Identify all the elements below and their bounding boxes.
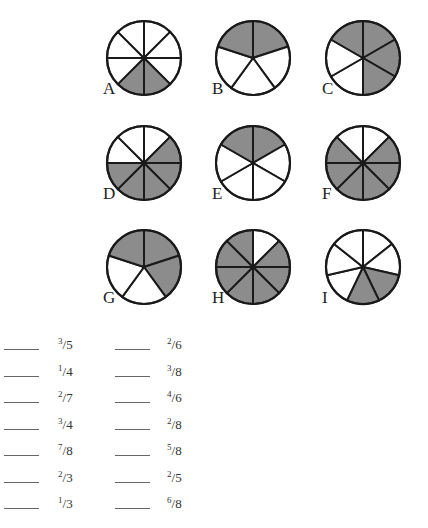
pie-label-e: E <box>212 185 222 202</box>
pie-label-a: A <box>103 80 115 97</box>
answer-blank[interactable] <box>4 455 39 456</box>
fraction-label: 5/8 <box>167 442 182 459</box>
pie-b <box>216 21 290 95</box>
fraction-label: 1/3 <box>58 495 73 512</box>
answer-blank[interactable] <box>4 508 39 509</box>
fraction-label: 2/8 <box>167 416 182 433</box>
answer-blank[interactable] <box>115 429 150 430</box>
pie-label-c: C <box>322 80 333 97</box>
fraction-label: 2/3 <box>58 469 73 486</box>
pie-i <box>326 230 400 304</box>
pie-c <box>326 21 400 95</box>
fraction-denominator: 3 <box>66 470 73 485</box>
fraction-label: 2/7 <box>58 389 73 406</box>
fraction-denominator: 4 <box>66 364 73 379</box>
answer-blank[interactable] <box>115 455 150 456</box>
fraction-label: 3/4 <box>58 416 73 433</box>
fraction-denominator: 6 <box>175 390 182 405</box>
pie-label-i: I <box>322 289 328 306</box>
answer-blank[interactable] <box>115 508 150 509</box>
fraction-denominator: 8 <box>175 496 182 511</box>
fraction-denominator: 6 <box>175 337 182 352</box>
fraction-denominator: 8 <box>175 417 182 432</box>
answer-blank[interactable] <box>115 349 150 350</box>
fraction-label: 6/8 <box>167 495 182 512</box>
fraction-label: 3/5 <box>58 336 73 353</box>
fraction-denominator: 8 <box>175 364 182 379</box>
answer-blank[interactable] <box>4 402 39 403</box>
fraction-label: 4/6 <box>167 389 182 406</box>
answer-blank[interactable] <box>4 482 39 483</box>
pie-label-b: B <box>212 80 223 97</box>
pie-center-dot <box>142 56 146 60</box>
pie-center-dot <box>142 161 146 165</box>
answer-blank[interactable] <box>4 349 39 350</box>
pie-center-dot <box>251 265 255 269</box>
pie-a <box>107 21 181 95</box>
pie-label-h: H <box>212 289 224 306</box>
answer-blank[interactable] <box>4 429 39 430</box>
pie-center-dot <box>251 56 255 60</box>
pie-chart-grid <box>0 0 428 320</box>
fraction-label: 1/4 <box>58 363 73 380</box>
fraction-denominator: 5 <box>66 337 73 352</box>
answer-blank[interactable] <box>115 482 150 483</box>
fraction-denominator: 8 <box>66 443 73 458</box>
pie-center-dot <box>251 161 255 165</box>
fraction-label: 3/8 <box>167 363 182 380</box>
pie-label-d: D <box>103 185 115 202</box>
pie-g <box>107 230 181 304</box>
pie-label-g: G <box>103 289 115 306</box>
pie-label-f: F <box>322 185 331 202</box>
fraction-label: 2/6 <box>167 336 182 353</box>
pie-d <box>107 126 181 200</box>
pie-e <box>216 126 290 200</box>
pie-h <box>216 230 290 304</box>
pie-f <box>326 126 400 200</box>
answer-blank[interactable] <box>115 376 150 377</box>
fraction-denominator: 8 <box>175 443 182 458</box>
fraction-denominator: 4 <box>66 417 73 432</box>
fraction-denominator: 7 <box>66 390 73 405</box>
answer-blank[interactable] <box>4 376 39 377</box>
pie-center-dot <box>142 265 146 269</box>
fraction-denominator: 3 <box>66 496 73 511</box>
fraction-denominator: 5 <box>175 470 182 485</box>
fraction-label: 7/8 <box>58 442 73 459</box>
pie-center-dot <box>361 56 365 60</box>
fraction-label: 2/5 <box>167 469 182 486</box>
pie-center-dot <box>361 161 365 165</box>
pie-center-dot <box>361 265 365 269</box>
answer-blank[interactable] <box>115 402 150 403</box>
